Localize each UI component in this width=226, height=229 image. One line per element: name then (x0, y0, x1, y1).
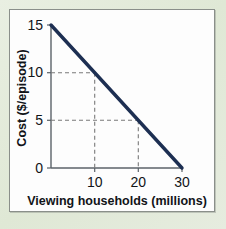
x-tick-label-10: 10 (87, 174, 103, 190)
cost-curve-plot: 15 10 5 0 10 20 30 Cost ($/episode) View… (10, 10, 214, 211)
x-tick-label-20: 20 (131, 174, 147, 190)
chart-panel: 15 10 5 0 10 20 30 Cost ($/episode) View… (9, 9, 215, 212)
chart-figure: 15 10 5 0 10 20 30 Cost ($/episode) View… (0, 0, 226, 229)
y-tick-label-10: 10 (27, 64, 43, 80)
x-tick-label-30: 30 (174, 174, 190, 190)
y-tick-label-15: 15 (27, 17, 43, 33)
cost-curve-line (51, 25, 182, 168)
y-tick-label-0: 0 (35, 160, 43, 176)
y-axis-title: Cost ($/episode) (15, 49, 29, 146)
y-tick-label-5: 5 (35, 112, 43, 128)
x-axis-title: Viewing households (millions) (27, 194, 207, 208)
